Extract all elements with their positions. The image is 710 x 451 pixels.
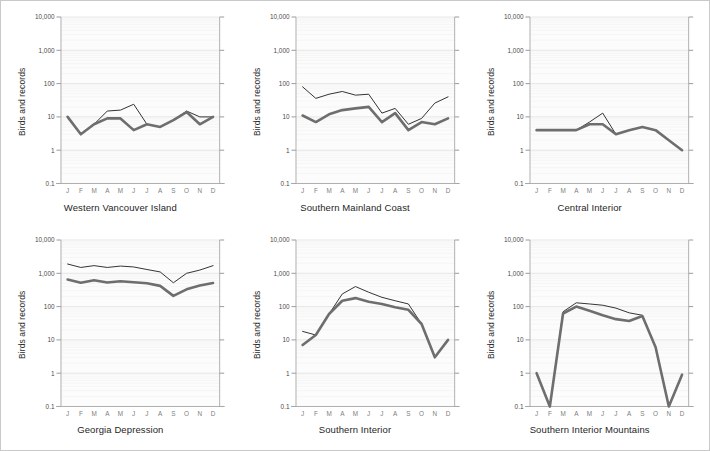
y-tick-label: 10 — [282, 336, 290, 343]
plot-southern-interior-mountains: 10,0001,0001001010.1JFMAMJJASOND — [472, 226, 707, 449]
y-tick-label: 10 — [47, 113, 55, 120]
x-tick-label: J — [380, 187, 383, 194]
x-tick-label: D — [445, 187, 450, 194]
x-tick-label: J — [132, 409, 135, 416]
x-tick-label: D — [211, 409, 216, 416]
y-tick-label: 0.1 — [515, 402, 524, 409]
plot-southern-mainland-coast: 10,0001,0001001010.1JFMAMJJASOND — [238, 3, 473, 226]
x-tick-label: A — [105, 187, 110, 194]
x-tick-label: M — [91, 187, 96, 194]
panel-title: Southern Mainland Coast — [238, 202, 473, 213]
y-tick-label: 1,000 — [39, 47, 55, 54]
x-tick-label: J — [615, 187, 618, 194]
plot-southern-interior: 10,0001,0001001010.1JFMAMJJASOND — [238, 226, 473, 449]
panel-southern-mainland-coast: Birds and records 10,0001,0001001010.1JF… — [238, 3, 473, 226]
x-tick-label: N — [667, 187, 672, 194]
x-tick-label: J — [615, 409, 618, 416]
y-tick-label: 1,000 — [39, 269, 55, 276]
x-tick-label: J — [145, 409, 148, 416]
plot-background — [296, 240, 455, 406]
y-tick-label: 1,000 — [273, 47, 289, 54]
x-tick-label: O — [419, 187, 424, 194]
x-tick-label: N — [432, 409, 437, 416]
x-tick-label: J — [535, 409, 538, 416]
x-tick-label: N — [198, 409, 203, 416]
y-tick-label: 10 — [517, 113, 525, 120]
x-tick-label: J — [301, 409, 304, 416]
y-tick-label: 10,000 — [35, 13, 55, 20]
x-tick-label: S — [406, 409, 410, 416]
x-tick-label: O — [419, 409, 424, 416]
y-tick-label: 1,000 — [508, 269, 524, 276]
panel-western-vancouver-island: Birds and records 10,0001,0001001010.1JF… — [3, 3, 238, 226]
x-tick-label: M — [561, 187, 566, 194]
x-axis: JFMAMJJASOND — [535, 187, 685, 194]
x-tick-label: F — [314, 409, 318, 416]
x-tick-label: A — [158, 409, 163, 416]
y-tick-label: 0.1 — [515, 180, 524, 187]
figure-small-multiples-panel: Birds and records 10,0001,0001001010.1JF… — [0, 0, 710, 451]
x-tick-label: A — [158, 187, 163, 194]
y-tick-label: 1 — [286, 369, 290, 376]
x-tick-label: M — [326, 409, 331, 416]
x-tick-label: S — [641, 409, 645, 416]
y-tick-label: 10,000 — [504, 236, 524, 243]
y-tick-label: 100 — [279, 80, 290, 87]
y-tick-label: 100 — [513, 303, 524, 310]
y-tick-label: 0.1 — [46, 402, 55, 409]
x-tick-label: O — [653, 187, 658, 194]
panel-grid: Birds and records 10,0001,0001001010.1JF… — [3, 3, 707, 448]
y-tick-label: 10,000 — [270, 13, 290, 20]
x-tick-label: J — [601, 409, 604, 416]
plot-background — [296, 17, 455, 183]
y-tick-label: 0.1 — [280, 402, 289, 409]
panel-title: Southern Interior Mountains — [472, 424, 707, 435]
plot-western-vancouver-island: 10,0001,0001001010.1JFMAMJJASOND — [3, 3, 238, 226]
x-axis: JFMAMJJASOND — [66, 187, 216, 194]
panel-southern-interior: Birds and records 10,0001,0001001010.1JF… — [238, 226, 473, 449]
panel-central-interior: Birds and records 10,0001,0001001010.1JF… — [472, 3, 707, 226]
panel-title: Southern Interior — [238, 424, 473, 435]
x-tick-label: D — [211, 187, 216, 194]
x-axis: JFMAMJJASOND — [301, 187, 451, 194]
x-tick-label: N — [432, 187, 437, 194]
y-tick-label: 10,000 — [35, 236, 55, 243]
x-tick-label: M — [587, 409, 592, 416]
x-tick-label: A — [393, 409, 398, 416]
panel-georgia-depression: Birds and records 10,0001,0001001010.1JF… — [3, 226, 238, 449]
x-tick-label: O — [653, 409, 658, 416]
y-axis-title: Birds and records — [252, 290, 262, 358]
panel-title: Western Vancouver Island — [3, 202, 238, 213]
x-tick-label: J — [301, 187, 304, 194]
x-tick-label: M — [326, 187, 331, 194]
y-tick-label: 1 — [51, 147, 55, 154]
x-tick-label: D — [445, 409, 450, 416]
y-axis-title: Birds and records — [486, 290, 496, 358]
y-tick-label: 1 — [286, 147, 290, 154]
x-tick-label: A — [105, 409, 110, 416]
x-tick-label: A — [574, 409, 579, 416]
y-axis-title: Birds and records — [17, 68, 27, 136]
y-tick-label: 100 — [44, 303, 55, 310]
panel-southern-interior-mountains: Birds and records 10,0001,0001001010.1JF… — [472, 226, 707, 449]
x-tick-label: J — [66, 187, 69, 194]
y-tick-label: 1 — [520, 369, 524, 376]
plot-georgia-depression: 10,0001,0001001010.1JFMAMJJASOND — [3, 226, 238, 449]
x-tick-label: A — [574, 187, 579, 194]
x-tick-label: S — [641, 187, 645, 194]
y-tick-label: 10 — [517, 336, 525, 343]
x-tick-label: A — [393, 187, 398, 194]
x-tick-label: J — [66, 409, 69, 416]
panel-title: Central Interior — [472, 202, 707, 213]
x-tick-label: J — [380, 409, 383, 416]
x-tick-label: N — [667, 409, 672, 416]
x-tick-label: M — [352, 187, 357, 194]
x-tick-label: S — [406, 187, 410, 194]
y-tick-label: 1,000 — [508, 47, 524, 54]
y-tick-label: 0.1 — [46, 180, 55, 187]
plot-background — [530, 17, 689, 183]
y-tick-label: 1 — [520, 147, 524, 154]
x-tick-label: M — [352, 409, 357, 416]
y-tick-label: 100 — [513, 80, 524, 87]
x-tick-label: M — [561, 409, 566, 416]
